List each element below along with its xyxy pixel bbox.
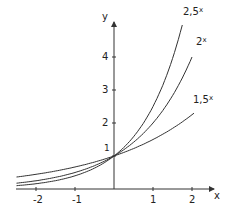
curve-label-2: 2x	[196, 37, 207, 47]
y-tick-label: 2	[102, 118, 108, 128]
y-tick-label: 4	[102, 52, 108, 62]
x-tick-label: 1	[150, 195, 156, 205]
x-tick-label: -1	[72, 195, 82, 205]
curve-label-1-5: 1,5x	[193, 95, 213, 105]
x-axis-label: x	[214, 191, 220, 201]
x-tick-label: -2	[33, 195, 43, 205]
exponential-plot	[0, 0, 234, 216]
x-tick-label: 2	[189, 195, 195, 205]
y-axis-label: y	[102, 12, 108, 22]
y-tick-label: 3	[102, 85, 108, 95]
curve-label-2-5: 2,5x	[183, 7, 203, 17]
intercept-label: 1	[104, 144, 110, 153]
curve-2,5^x	[17, 25, 183, 186]
